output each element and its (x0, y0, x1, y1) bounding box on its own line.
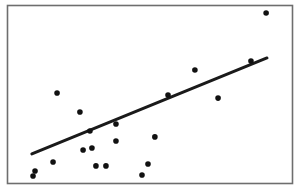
data-point (215, 95, 221, 101)
data-point (113, 138, 119, 144)
data-point (103, 163, 109, 169)
data-point (77, 109, 83, 115)
data-point (248, 58, 254, 64)
data-point (263, 10, 269, 16)
data-point (87, 128, 93, 134)
data-point (32, 168, 38, 174)
data-point (54, 90, 60, 96)
scatter-chart (0, 0, 295, 191)
data-point (192, 67, 198, 73)
data-point (89, 145, 95, 151)
data-point (50, 159, 56, 165)
data-point (93, 163, 99, 169)
data-point (139, 172, 145, 178)
data-point (113, 121, 119, 127)
data-point (145, 161, 151, 167)
data-point (30, 173, 36, 179)
data-point (152, 134, 158, 140)
data-point (165, 92, 171, 98)
data-point (80, 147, 86, 153)
